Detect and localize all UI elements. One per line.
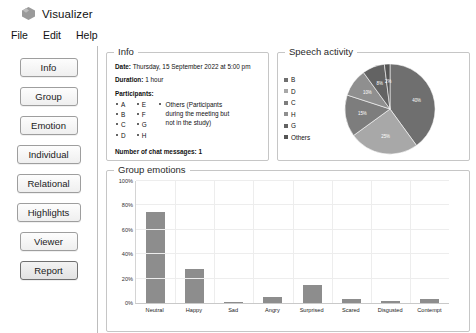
info-date-label: Date:: [115, 63, 131, 70]
bar-chart-x-axis: NeutralHappySadAngrySurprisedScaredDisgu…: [135, 307, 449, 313]
info-duration-label: Duration:: [115, 76, 143, 83]
y-axis-tick: 0%: [125, 300, 133, 306]
legend-label: C: [291, 99, 296, 106]
y-axis-tick: 40%: [122, 251, 133, 257]
menu-item-edit[interactable]: Edit: [42, 29, 62, 47]
legend-swatch-icon: [284, 124, 288, 128]
legend-swatch-icon: [284, 112, 288, 116]
pie-slice-label: 2%: [385, 78, 391, 83]
app-title: Visualizer: [42, 8, 93, 20]
list-item: E: [142, 100, 147, 109]
gridline-vertical: [175, 181, 176, 303]
cube-icon: [22, 7, 36, 21]
bar[interactable]: [420, 299, 439, 303]
gridline-vertical: [214, 181, 215, 303]
pie-slice-label: 25%: [381, 134, 390, 139]
list-item: C: [121, 120, 126, 129]
sidebar-item-group[interactable]: Group: [20, 87, 78, 106]
sidebar-item-viewer[interactable]: Viewer: [20, 232, 78, 251]
pie-slice-label: 15%: [358, 110, 367, 115]
x-axis-label: Surprised: [292, 307, 331, 313]
legend-item-b[interactable]: B: [284, 76, 310, 83]
bar-slot: [293, 181, 332, 303]
y-axis-tick: 100%: [119, 178, 133, 184]
chat-messages-label: Number of chat messages:: [115, 148, 197, 155]
list-item: H: [142, 131, 147, 140]
legend-label: Others: [291, 134, 310, 141]
info-duration-value: 1 hour: [145, 76, 163, 83]
bar[interactable]: [381, 301, 400, 303]
x-axis-label: Neutral: [135, 307, 174, 313]
pie-slice-label: 40%: [412, 97, 421, 102]
participants-column-2: E F G H: [136, 100, 147, 141]
list-item: F: [142, 110, 147, 119]
sidebar-item-highlights[interactable]: Highlights: [17, 203, 81, 222]
workspace: Info Group Emotion Individual Relational…: [0, 46, 476, 333]
legend-label: D: [291, 88, 296, 95]
list-item: D: [121, 131, 126, 140]
pie-svg: 40%25%15%10%8%2%: [342, 61, 438, 157]
legend-swatch-icon: [284, 101, 288, 105]
bar[interactable]: [224, 302, 243, 303]
list-item: A: [121, 100, 126, 109]
bar[interactable]: [342, 299, 361, 303]
bar-slot: [175, 181, 214, 303]
participants-grid: A B C D E F G H Others (Participants dur…: [115, 100, 260, 141]
content-area: Info Date: Thursday, 15 September 2022 a…: [98, 46, 476, 333]
group-emotions-bar-chart[interactable]: 0%20%40%60%80%100% NeutralHappySadAngryS…: [107, 171, 469, 331]
sidebar-item-relational[interactable]: Relational: [17, 174, 81, 193]
legend-swatch-icon: [284, 135, 288, 139]
info-panel-title: Info: [114, 47, 138, 57]
bar-slot: [136, 181, 175, 303]
legend-item-c[interactable]: C: [284, 99, 310, 106]
sidebar-item-info[interactable]: Info: [20, 58, 78, 77]
legend-item-d[interactable]: D: [284, 88, 310, 95]
x-axis-label: Angry: [253, 307, 292, 313]
participants-label: Participants:: [115, 89, 260, 98]
info-date-row: Date: Thursday, 15 September 2022 at 5:0…: [115, 62, 260, 71]
x-axis-label: Scared: [331, 307, 370, 313]
bar-slot: [410, 181, 449, 303]
title-bar: Visualizer: [0, 0, 476, 24]
y-axis-tick: 60%: [122, 227, 133, 233]
x-axis-label: Contempt: [410, 307, 449, 313]
bar-slot: [253, 181, 292, 303]
bar[interactable]: [303, 285, 322, 303]
sidebar: Info Group Emotion Individual Relational…: [0, 46, 98, 333]
speech-activity-pie-chart[interactable]: 40%25%15%10%8%2%: [314, 61, 465, 157]
gridline-vertical: [253, 181, 254, 303]
bar-slot: [214, 181, 253, 303]
menu-bar: File Edit Help: [0, 24, 476, 47]
legend-swatch-icon: [284, 78, 288, 82]
chat-messages-value: 1: [198, 148, 202, 155]
menu-item-file[interactable]: File: [10, 29, 29, 47]
pie-slice-label: 10%: [363, 90, 372, 95]
sidebar-item-individual[interactable]: Individual: [17, 145, 81, 164]
legend-label: H: [291, 111, 296, 118]
gridline-vertical: [293, 181, 294, 303]
legend-item-g[interactable]: G: [284, 122, 310, 129]
sidebar-item-emotion[interactable]: Emotion: [20, 116, 78, 135]
legend-item-h[interactable]: H: [284, 111, 310, 118]
bar[interactable]: [185, 269, 204, 303]
legend-item-others[interactable]: Others: [284, 134, 310, 141]
bar[interactable]: [146, 212, 165, 304]
bar-slot: [332, 181, 371, 303]
top-row: Info Date: Thursday, 15 September 2022 a…: [106, 52, 470, 161]
list-item: G: [142, 120, 147, 129]
legend-swatch-icon: [284, 89, 288, 93]
participants-others-note: Others (Participants during the meeting …: [157, 100, 238, 141]
speech-activity-title: Speech activity: [285, 47, 357, 57]
x-axis-label: Sad: [214, 307, 253, 313]
chat-messages-row: Number of chat messages: 1: [115, 147, 260, 156]
menu-item-help[interactable]: Help: [75, 29, 99, 47]
x-axis-label: Disgusted: [371, 307, 410, 313]
info-date-value: Thursday, 15 September 2022 at 5:00 pm: [133, 63, 251, 70]
sidebar-item-report[interactable]: Report: [20, 261, 78, 280]
speech-activity-panel: Speech activity B D C: [277, 52, 470, 161]
pie-legend: B D C H: [284, 76, 314, 141]
participants-column-1: A B C D: [115, 100, 126, 141]
gridline-vertical: [410, 181, 411, 303]
x-axis-label: Happy: [174, 307, 213, 313]
bar[interactable]: [263, 297, 282, 303]
